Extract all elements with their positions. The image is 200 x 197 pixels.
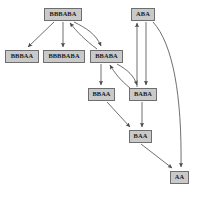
graph-node-bbbaba[interactable]: BBBABA	[44, 8, 82, 21]
edge-aba-aa	[153, 22, 181, 167]
graph-node-aa[interactable]: AA	[170, 171, 189, 184]
node-label: BBBAA	[11, 53, 34, 59]
node-label: BBABA	[95, 53, 118, 59]
edge-bbaa-baa	[107, 102, 130, 127]
graph-node-bbbbaba[interactable]: BBBBABA	[43, 50, 85, 63]
node-label: BABA	[134, 91, 152, 97]
edge-bbbaba-bbbaa	[28, 22, 54, 47]
graph-node-aba[interactable]: ABA	[131, 8, 155, 21]
node-label: BBBBABA	[48, 53, 79, 59]
graph-node-bbaa[interactable]: BBAA	[88, 88, 115, 101]
node-label: BAA	[134, 133, 148, 139]
edge-baba-bbaba	[110, 65, 130, 88]
node-label: BBAA	[92, 91, 110, 97]
graph-canvas: BBBABA ABA BBBAA BBBBABA BBABA BBAA BABA…	[0, 0, 200, 197]
graph-node-bbaba[interactable]: BBABA	[90, 50, 123, 63]
graph-node-bbbaa[interactable]: BBBAA	[5, 50, 39, 63]
edge-bbaba-baba	[117, 64, 137, 85]
graph-node-baba[interactable]: BABA	[129, 88, 157, 101]
graph-node-baa[interactable]: BAA	[129, 130, 152, 143]
node-label: ABA	[136, 11, 150, 17]
edge-baa-aa	[141, 144, 172, 168]
edge-bbbaba-bbaba	[74, 22, 101, 46]
node-label: BBBABA	[50, 11, 77, 17]
node-label: AA	[175, 174, 184, 180]
